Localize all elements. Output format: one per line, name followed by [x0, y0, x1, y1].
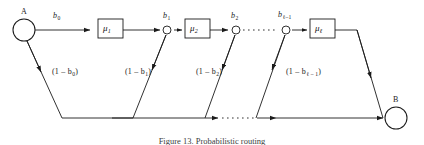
node-a-circle [13, 19, 35, 41]
service-box-label-mu-ell: μℓ [315, 24, 322, 34]
branch-one-minus-b0-arrow [27, 41, 41, 72]
branch-one-minus-b1-arrow [152, 35, 166, 70]
service-box-label-mu-ell-sub: ℓ [320, 28, 323, 34]
branch-label-b0-sub: 0 [57, 15, 60, 21]
figure-caption: Figure 13. Probabilistic routing [0, 137, 424, 145]
branch-label-b0: b0 [53, 12, 61, 21]
service-box-label-mu1: μ1 [103, 24, 111, 34]
service-box-mu-ell [310, 19, 335, 38]
branch-label-b2-sub: 2 [235, 15, 238, 21]
branch-one-minus-b2-arrow [222, 35, 235, 70]
service-box-label-mu1-base: μ [103, 23, 108, 33]
service-box-label-mu2-base: μ [190, 23, 195, 33]
junction-b1-circle [163, 26, 171, 34]
complement-label-b1-text: (1 – b [125, 67, 145, 76]
branch-label-b1: b1 [163, 12, 171, 21]
service-box-label-mu2: μ2 [190, 24, 198, 34]
service-box-label-mu1-sub: 1 [108, 28, 111, 34]
node-b-label: B [393, 96, 399, 104]
service-box-label-mu-ell-base: μ [315, 23, 320, 33]
branch-label-b-ell-minus-1: bℓ–1 [278, 11, 291, 20]
junction-b2-circle [232, 26, 240, 34]
complement-label-b1-tail: ) [148, 67, 151, 76]
figure-container: A B b0 b1 b2 bℓ–1 μ1 μ2 μℓ (1 – b0) (1 –… [0, 0, 424, 145]
branch-one-minus-b-ell-arrow [272, 35, 285, 70]
service-box-label-mu2-sub: 2 [195, 28, 198, 34]
branch-label-b-ell-sub: ℓ–1 [282, 14, 291, 20]
complement-label-b2-tail: ) [219, 67, 222, 76]
edge-mul-to-node-b-arrow [357, 30, 371, 78]
junction-b-ell-circle [282, 26, 290, 34]
complement-label-b-ell-text: (1 – b [286, 67, 306, 76]
complement-label-b2: (1 – b2) [196, 68, 222, 77]
complement-label-b1: (1 – b1) [125, 68, 151, 77]
complement-label-b0-text: (1 – b [52, 67, 72, 76]
complement-label-b-ell-sub: ℓ – 1 [306, 71, 318, 77]
complement-label-b0-tail: ) [75, 67, 78, 76]
complement-label-b-ell-tail: ) [318, 67, 321, 76]
complement-label-b2-text: (1 – b [196, 67, 216, 76]
complement-label-b0: (1 – b0) [52, 68, 78, 77]
node-b-circle [385, 107, 407, 129]
node-a-label: A [21, 8, 27, 16]
branch-label-b1-sub: 1 [167, 15, 170, 21]
branch-label-b2: b2 [231, 12, 239, 21]
complement-label-b-ell-minus-1: (1 – bℓ – 1) [286, 68, 321, 77]
